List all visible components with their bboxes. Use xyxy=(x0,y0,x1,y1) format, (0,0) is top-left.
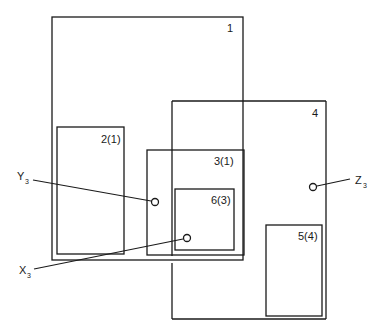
point-y3-leader xyxy=(33,180,151,201)
region-1-label: 1 xyxy=(227,22,233,34)
region-5: 5(4) xyxy=(266,225,322,316)
point-x3: X 3 xyxy=(19,235,191,280)
point-x3-subscript: 3 xyxy=(27,272,31,279)
point-z3-letter: Z xyxy=(355,174,362,186)
region-6: 6(3) xyxy=(175,189,234,250)
region-2-label: 2(1) xyxy=(101,133,121,145)
point-y3-subscript: 3 xyxy=(25,178,29,185)
point-z3-leader xyxy=(317,179,350,186)
point-y3-marker xyxy=(152,199,159,206)
point-y3-letter: Y xyxy=(17,170,25,182)
region-4: 4 xyxy=(172,101,326,319)
point-z3-marker xyxy=(310,184,317,191)
region-6-label: 6(3) xyxy=(211,194,231,206)
nested-regions-diagram: 1 4 2(1) 3(1) 6(3) 5(4) Y 3 X xyxy=(0,0,385,335)
point-x3-marker xyxy=(184,235,191,242)
region-4-label: 4 xyxy=(312,107,318,119)
point-y3: Y 3 xyxy=(17,170,159,206)
point-z3: Z 3 xyxy=(310,174,368,191)
point-x3-letter: X xyxy=(19,264,27,276)
point-z3-subscript: 3 xyxy=(363,182,367,189)
region-3-label: 3(1) xyxy=(214,155,234,167)
region-5-label: 5(4) xyxy=(298,230,318,242)
